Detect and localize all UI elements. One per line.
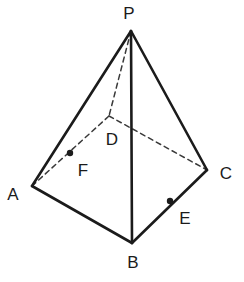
edge-B-C	[132, 170, 207, 243]
edge-A-B	[32, 186, 132, 243]
edge-P-B	[131, 31, 132, 243]
hidden-edges-group	[32, 31, 207, 186]
edge-P-D	[109, 31, 131, 116]
point-marker-E	[167, 198, 173, 204]
vertex-label-D: D	[106, 131, 118, 148]
point-label-E: E	[179, 210, 190, 227]
vertex-label-C: C	[220, 165, 232, 182]
point-label-F: F	[78, 162, 88, 179]
vertex-label-A: A	[7, 186, 18, 203]
pyramid-drawing	[0, 0, 244, 282]
vertex-label-P: P	[123, 5, 134, 22]
pyramid-figure: P A B C D F E	[0, 0, 244, 282]
vertex-label-B: B	[127, 254, 138, 271]
point-marker-F	[67, 150, 73, 156]
